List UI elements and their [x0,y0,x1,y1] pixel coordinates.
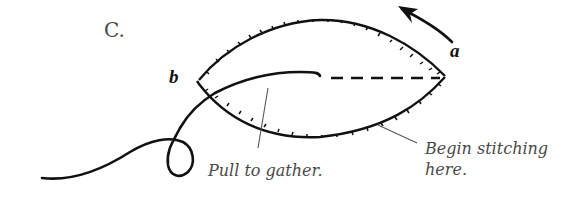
stitched-lens-outline [197,19,445,138]
pull-to-gather-label: Pull to gather. [207,161,323,180]
gathering-stitch-diagram: C. [0,0,574,201]
begin-stitching-label-line1: Begin stitching [424,139,548,158]
begin-stitching-label-line2: here. [425,160,467,179]
point-a-label: a [450,40,460,61]
begin-stitching-leader [378,125,417,143]
direction-arrow-icon [398,6,452,42]
panel-label: C. [104,18,125,42]
pull-to-gather-leader [258,88,268,148]
point-b-label: b [169,66,179,87]
